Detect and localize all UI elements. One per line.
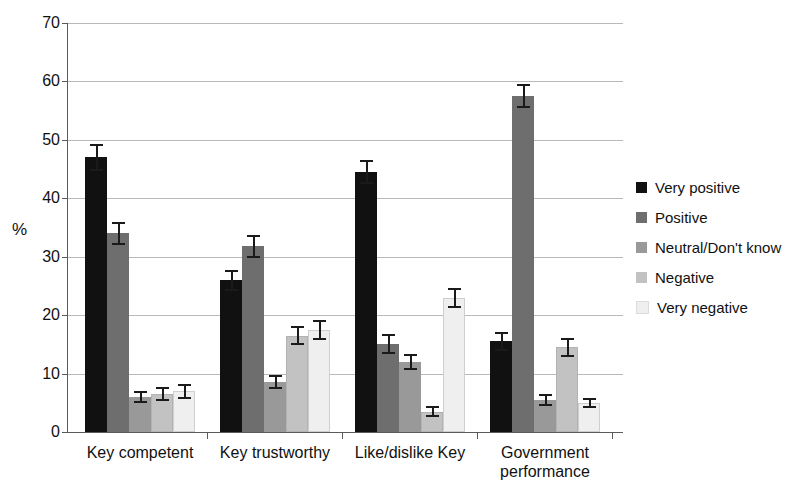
x-category-label: Like/dislike Key: [340, 443, 480, 462]
error-bar-cap-upper: [517, 84, 530, 86]
y-axis-line: [67, 23, 68, 432]
error-bar-cap-lower: [561, 355, 574, 357]
chart-legend: Very positivePositiveNeutral/Don't knowN…: [636, 172, 781, 322]
y-tick-label: 50: [26, 132, 60, 148]
y-tick-label: 10: [26, 366, 60, 382]
legend-color-swatch: [636, 182, 647, 193]
bar: [107, 233, 129, 432]
error-bar-cap-upper: [360, 160, 373, 162]
error-bar-cap-upper: [382, 334, 395, 336]
legend-item-label: Negative: [655, 269, 714, 286]
y-tick-mark: [62, 315, 68, 316]
legend-color-swatch: [636, 301, 649, 314]
y-tick-label: 30: [26, 249, 60, 265]
error-bar-cap-lower: [382, 352, 395, 354]
error-bar-cap-lower: [495, 349, 508, 351]
y-tick-mark: [62, 23, 68, 24]
error-bar: [247, 235, 260, 258]
x-tick-mark: [207, 432, 208, 439]
x-category-label-line: Like/dislike Key: [340, 443, 480, 462]
error-bar-cap-upper: [247, 235, 260, 237]
x-axis-line: [67, 432, 623, 433]
error-bar-stem: [118, 222, 120, 245]
error-bar-cap-upper: [448, 288, 461, 290]
error-bar-cap-upper: [269, 375, 282, 377]
bar: [242, 246, 264, 432]
error-bar-cap-upper: [156, 387, 169, 389]
x-category-label-line: Key competent: [70, 443, 210, 462]
y-tick-label: 70: [26, 15, 60, 31]
bar: [556, 347, 578, 432]
error-bar-cap-upper: [561, 338, 574, 340]
error-bar-cap-lower: [90, 169, 103, 171]
error-bar-cap-lower: [225, 289, 238, 291]
error-bar: [269, 375, 282, 389]
y-tick-label: 0: [26, 424, 60, 440]
gridline: [67, 198, 623, 199]
error-bar: [112, 222, 125, 245]
legend-color-swatch: [636, 272, 647, 283]
error-bar: [382, 334, 395, 354]
error-bar-cap-lower: [517, 106, 530, 108]
bar: [512, 96, 534, 432]
bar: [377, 344, 399, 432]
x-category-label: Key competent: [70, 443, 210, 462]
bar: [308, 330, 330, 432]
error-bar-cap-lower: [112, 243, 125, 245]
gridline: [67, 81, 623, 82]
error-bar-cap-upper: [404, 354, 417, 356]
error-bar-cap-upper: [495, 332, 508, 334]
error-bar-cap-upper: [225, 270, 238, 272]
error-bar: [426, 406, 439, 417]
error-bar: [539, 394, 552, 406]
x-category-label: Key trustworthy: [205, 443, 345, 462]
error-bar-cap-upper: [178, 384, 191, 386]
bar: [220, 280, 242, 432]
error-bar-cap-upper: [134, 391, 147, 393]
error-bar-cap-lower: [291, 343, 304, 345]
y-tick-label: 60: [26, 73, 60, 89]
x-category-label-line: Key trustworthy: [205, 443, 345, 462]
y-tick-mark: [62, 432, 68, 433]
error-bar-stem: [366, 160, 368, 185]
gridline: [67, 257, 623, 258]
legend-item[interactable]: Neutral/Don't know: [636, 232, 781, 262]
legend-color-swatch: [636, 242, 647, 253]
x-category-label: Governmentperformance: [475, 443, 615, 481]
gridline: [67, 23, 623, 24]
error-bar-cap-lower: [404, 368, 417, 370]
error-bar-stem: [253, 235, 255, 258]
x-category-label-line: Government: [475, 443, 615, 462]
error-bar: [90, 144, 103, 171]
error-bar-stem: [96, 144, 98, 171]
legend-item[interactable]: Negative: [636, 262, 781, 292]
error-bar: [225, 270, 238, 291]
bar: [399, 362, 421, 432]
error-bar-cap-lower: [156, 399, 169, 401]
error-bar-cap-upper: [112, 222, 125, 224]
y-tick-mark: [62, 374, 68, 375]
y-tick-mark: [62, 198, 68, 199]
error-bar-stem: [231, 270, 233, 291]
error-bar: [404, 354, 417, 370]
x-tick-mark: [342, 432, 343, 439]
y-axis-label: %: [12, 220, 28, 240]
legend-item-label: Positive: [655, 209, 708, 226]
error-bar-cap-lower: [269, 387, 282, 389]
error-bar-cap-lower: [583, 406, 596, 408]
bar-chart-figure: % 010203040506070 Key competentKey trust…: [0, 0, 785, 489]
legend-item[interactable]: Positive: [636, 202, 781, 232]
error-bar-cap-lower: [134, 401, 147, 403]
gridline: [67, 140, 623, 141]
legend-item[interactable]: Very positive: [636, 172, 781, 202]
legend-color-swatch: [636, 212, 647, 223]
error-bar-cap-upper: [90, 144, 103, 146]
bar: [490, 341, 512, 432]
error-bar: [313, 320, 326, 340]
error-bar-cap-lower: [360, 182, 373, 184]
error-bar-cap-upper: [539, 394, 552, 396]
error-bar: [448, 288, 461, 308]
y-tick-label: 20: [26, 307, 60, 323]
legend-item[interactable]: Very negative: [636, 292, 781, 322]
gridline: [67, 315, 623, 316]
